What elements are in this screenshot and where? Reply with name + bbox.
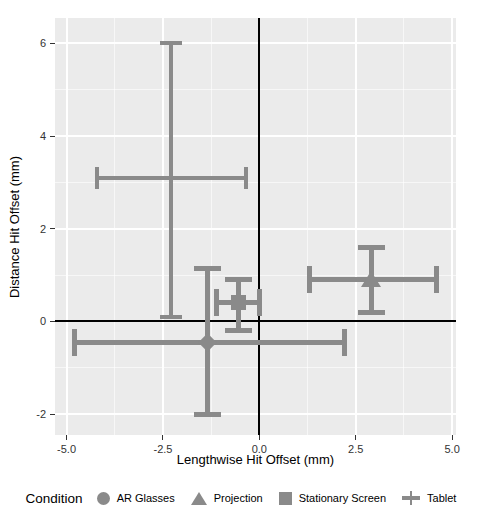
circle-marker-icon: [97, 492, 110, 505]
errorbar-projection-ycap: [358, 310, 385, 315]
errorbar-projection-xcap: [307, 266, 312, 293]
gridline-major-horizontal: [55, 42, 456, 44]
legend-title: Condition: [26, 491, 83, 506]
gridline-minor-horizontal: [55, 367, 456, 368]
gridline-major-vertical: [355, 18, 357, 435]
x-tick: [355, 435, 356, 440]
errorbar-stationary-screen-ycap: [225, 277, 252, 282]
errorbar-stationary-screen-xcap: [257, 289, 262, 316]
legend-item-tablet: Tablet: [402, 491, 456, 505]
legend-item-label: Projection: [214, 492, 263, 504]
legend-item-label: Tablet: [427, 492, 456, 504]
errorbar-tablet-vertical: [169, 43, 173, 316]
legend-items: AR GlassesProjectionStationary ScreenTab…: [97, 491, 457, 505]
errorbar-tablet-ycap: [160, 315, 182, 319]
gridline-major-horizontal: [55, 135, 456, 137]
errorbar-ar-glasses-ycap: [194, 266, 221, 271]
errorbar-tablet-ycap: [160, 41, 182, 45]
plus-vertical-bar: [410, 491, 412, 505]
x-tick: [452, 435, 453, 440]
errorbar-projection-ycap: [358, 245, 385, 250]
errorbar-stationary-screen-xcap: [214, 289, 219, 316]
gridline-minor-horizontal: [55, 275, 456, 276]
x-axis-title: Lengthwise Hit Offset (mm): [55, 452, 456, 467]
legend-item-ar-glasses: AR Glasses: [97, 492, 175, 505]
y-tick-label: 2: [18, 223, 46, 236]
y-tick: [50, 136, 55, 137]
legend-item-stationary-screen: Stationary Screen: [279, 492, 386, 505]
zero-line-horizontal: [55, 320, 456, 322]
point-stationary-screen: [231, 295, 246, 310]
errorbar-tablet-xcap: [95, 167, 99, 189]
y-tick: [50, 321, 55, 322]
y-tick: [50, 228, 55, 229]
legend: Condition AR GlassesProjectionStationary…: [0, 483, 482, 513]
errorbar-projection-xcap: [434, 266, 439, 293]
plus-marker-icon: [402, 491, 420, 505]
zero-line-vertical: [258, 18, 260, 435]
legend-item-label: AR Glasses: [117, 492, 175, 504]
triangle-marker-icon: [191, 492, 207, 505]
gridline-minor-horizontal: [55, 89, 456, 90]
gridline-minor-vertical: [211, 18, 212, 435]
errorbar-ar-glasses-xcap: [342, 329, 347, 356]
y-tick-label: 6: [18, 37, 46, 50]
y-axis-title: Distance Hit Offset (mm): [7, 156, 22, 298]
y-tick: [50, 43, 55, 44]
gridline-major-horizontal: [55, 413, 456, 415]
gridline-major-vertical: [66, 18, 68, 435]
x-tick: [162, 435, 163, 440]
gridline-minor-vertical: [114, 18, 115, 435]
legend-item-label: Stationary Screen: [299, 492, 386, 504]
gridline-minor-vertical: [307, 18, 308, 435]
gridline-minor-horizontal: [55, 182, 456, 183]
errorbar-tablet-xcap: [244, 167, 248, 189]
point-projection: [361, 271, 381, 287]
errorbar-ar-glasses-ycap: [194, 412, 221, 417]
errorbar-stationary-screen-ycap: [225, 328, 252, 333]
y-tick-label: 4: [18, 130, 46, 143]
y-tick-label: -2: [18, 408, 46, 421]
chart-figure: -5.0-2.50.02.55.06420-2 Distance Hit Off…: [0, 0, 482, 525]
gridline-major-horizontal: [55, 228, 456, 230]
gridline-major-vertical: [451, 18, 453, 435]
y-tick-label: 0: [18, 315, 46, 328]
errorbar-ar-glasses-xcap: [72, 329, 77, 356]
x-tick: [66, 435, 67, 440]
legend-item-projection: Projection: [191, 492, 263, 505]
square-marker-icon: [279, 492, 292, 505]
gridline-major-vertical: [162, 18, 164, 435]
gridline-minor-vertical: [403, 18, 404, 435]
y-tick: [50, 414, 55, 415]
x-tick: [259, 435, 260, 440]
